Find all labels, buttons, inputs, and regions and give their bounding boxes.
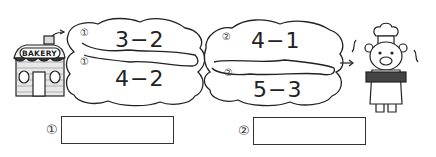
route1-upper-expression: 3−2 — [115, 29, 164, 51]
answer1-marker: ① — [46, 123, 58, 136]
answer2-box[interactable] — [253, 117, 366, 145]
route1-upper-marker: ① — [80, 28, 89, 38]
route2-upper-expression: 4−1 — [251, 30, 300, 52]
route1-lower-marker: ① — [80, 57, 89, 67]
route2-upper-marker: ② — [222, 32, 231, 42]
answer2-marker: ② — [238, 124, 250, 137]
answer1-box[interactable] — [61, 116, 174, 144]
bakery-sign: BAKERY — [22, 49, 57, 58]
bear-baker-icon — [352, 23, 418, 112]
route2-lower-expression: 5−3 — [253, 79, 302, 101]
route2-lower-marker: ② — [224, 68, 233, 78]
route1-lower-expression: 4−2 — [115, 68, 164, 90]
bakery-building-icon — [14, 36, 65, 96]
